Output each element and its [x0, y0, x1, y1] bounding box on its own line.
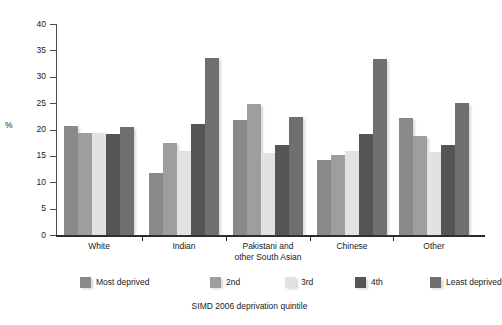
y-axis-tick-mark — [50, 50, 56, 51]
y-axis-tick-mark — [50, 24, 56, 25]
bar-face — [163, 143, 177, 235]
legend-swatch-face — [210, 277, 221, 288]
y-axis-tick-label: 0 — [22, 231, 46, 240]
bar — [177, 151, 191, 235]
bar-face — [205, 58, 219, 235]
y-axis-tick-label-wrap: 40 — [0, 20, 46, 29]
legend-swatch — [80, 277, 91, 288]
bar — [441, 145, 455, 235]
legend-label: 2nd — [226, 277, 240, 287]
legend-label: Most deprived — [96, 277, 149, 287]
bar — [373, 59, 387, 235]
bar-group — [64, 24, 134, 235]
y-axis-tick-label: 25 — [22, 99, 46, 108]
y-axis-tick-label-wrap: 25 — [0, 99, 46, 108]
bar — [427, 152, 441, 235]
y-axis-tick-mark — [50, 130, 56, 131]
bar-face — [261, 153, 275, 235]
legend-item[interactable]: Most deprived — [80, 275, 149, 289]
bar-face — [149, 173, 163, 235]
bar — [233, 120, 247, 235]
y-axis-tick-mark — [50, 156, 56, 157]
bar — [191, 124, 205, 235]
bar-group — [399, 24, 469, 235]
bar-face — [331, 155, 345, 235]
bar-group-bars — [233, 24, 303, 235]
bar-face — [106, 134, 120, 235]
y-axis-tick-mark — [50, 209, 56, 210]
y-axis-tick-label: 10 — [22, 178, 46, 187]
bar-group — [317, 24, 387, 235]
x-axis-category-label-line: Other — [379, 241, 489, 252]
bar-face — [92, 133, 106, 235]
bar — [64, 126, 78, 235]
bar — [399, 118, 413, 235]
bar-group — [149, 24, 219, 235]
bar-face — [64, 126, 78, 235]
bar — [78, 133, 92, 235]
bar — [163, 143, 177, 235]
y-axis-tick-label-wrap: 20 — [0, 125, 46, 134]
bar-face — [289, 117, 303, 235]
y-axis-tick-label-wrap: 5 — [0, 204, 46, 213]
bar-face — [191, 124, 205, 235]
bar — [149, 173, 163, 235]
bar-face — [373, 59, 387, 235]
legend-swatch — [355, 277, 366, 288]
x-axis-line — [56, 235, 485, 237]
bar-face — [317, 160, 331, 235]
bar-face — [455, 103, 469, 235]
bar-group-bars — [149, 24, 219, 235]
y-axis-tick-mark — [50, 77, 56, 78]
legend-swatch-face — [80, 277, 91, 288]
bar-face — [427, 152, 441, 235]
bar-group-bars — [64, 24, 134, 235]
bar — [359, 134, 373, 235]
bar-face — [359, 134, 373, 235]
legend-swatch-face — [355, 277, 366, 288]
y-axis-tick-mark — [50, 235, 56, 236]
bar-face — [247, 104, 261, 235]
y-axis-tick-label-wrap: 0 — [0, 231, 46, 240]
y-axis-tick-label: 20 — [22, 125, 46, 134]
legend-item[interactable]: 3rd — [285, 275, 313, 289]
bar — [247, 104, 261, 235]
bar-face — [233, 120, 247, 235]
bar — [289, 117, 303, 235]
bar — [275, 145, 289, 235]
bar-group — [233, 24, 303, 235]
bar-face — [120, 127, 134, 235]
legend-item[interactable]: 4th — [355, 275, 383, 289]
legend-label: Least deprived — [446, 277, 502, 287]
legend-swatch-face — [430, 277, 441, 288]
legend-label: 4th — [371, 277, 383, 287]
legend-swatch-face — [285, 277, 296, 288]
bar — [331, 155, 345, 235]
bar-group-bars — [317, 24, 387, 235]
legend-item[interactable]: 2nd — [210, 275, 240, 289]
bar — [261, 153, 275, 235]
bar-face — [399, 118, 413, 235]
bar — [205, 58, 219, 235]
plot-area — [57, 24, 484, 235]
bar — [413, 136, 427, 235]
bar-face — [78, 133, 92, 235]
bar — [317, 160, 331, 235]
bar-face — [275, 145, 289, 235]
x-axis-title: SIMD 2006 deprivation quintile — [0, 301, 499, 311]
bar — [106, 134, 120, 235]
legend-swatch — [210, 277, 221, 288]
legend-item[interactable]: Least deprived — [430, 275, 502, 289]
bar-face — [413, 136, 427, 235]
y-axis-tick-mark — [50, 103, 56, 104]
bar — [455, 103, 469, 235]
y-axis-tick-label: 40 — [22, 20, 46, 29]
y-axis-tick-label-wrap: 15 — [0, 151, 46, 160]
legend-label: 3rd — [301, 277, 313, 287]
y-axis-tick-label: 5 — [22, 204, 46, 213]
y-axis-tick-label: 15 — [22, 151, 46, 160]
legend: Most deprived2nd3rd4thLeast deprived — [80, 275, 480, 291]
x-axis-category-label-line: other South Asian — [213, 252, 323, 263]
x-axis-category-label: Other — [379, 241, 489, 252]
